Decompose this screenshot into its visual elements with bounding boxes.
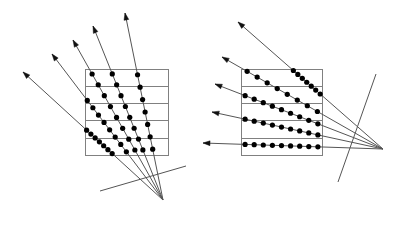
shallow-fan-beam-panel-ray-1-arrowhead-icon [212,111,219,116]
shallow-fan-beam-panel-sample-dot [297,144,302,149]
shallow-fan-beam-panel-sample-dot [270,122,275,127]
steep-fan-beam-panel-sample-dot [120,126,125,131]
steep-fan-beam-panel-ray-0 [23,72,163,200]
steep-fan-beam-panel-sample-dot [110,151,115,156]
steep-fan-beam-panel-sample-dot [113,135,118,140]
shallow-fan-beam-panel-sample-dot [270,104,275,109]
shallow-fan-beam-panel-sample-dot [243,93,248,98]
shallow-fan-beam-panel-sample-dot [297,114,302,119]
steep-fan-beam-panel-sample-dot [137,85,142,90]
shallow-fan-beam-panel-sample-dot [291,68,296,73]
steep-fan-beam-panel-sample-dot [150,147,155,152]
steep-fan-beam-panel-sample-dot [118,93,123,98]
shallow-fan-beam-panel-sample-dot [279,107,284,112]
steep-fan-beam-panel-sample-dot [108,104,113,109]
shallow-fan-beam-panel-sample-dot [242,142,247,147]
shallow-fan-beam-panel-sample-dot [279,124,284,129]
shallow-fan-beam-panel-sample-dot [270,143,275,148]
shallow-fan-beam-panel-sample-dot [315,144,320,149]
shallow-fan-beam-panel-sample-dot [288,126,293,131]
shallow-fan-beam-panel-sample-dot [315,132,320,137]
steep-fan-beam-panel [23,13,186,200]
steep-fan-beam-panel-sample-dot [107,127,112,132]
steep-fan-beam-panel-ray-4-arrowhead-icon [124,13,129,20]
shallow-fan-beam-panel-sample-dot [279,143,284,148]
steep-fan-beam-panel-ray-3-arrowhead-icon [93,26,98,33]
shallow-fan-beam-panel-sample-dot [252,119,257,124]
shallow-fan-beam-panel-sample-dot [261,142,266,147]
shallow-fan-beam-panel-sample-dot [300,76,305,81]
steep-fan-beam-panel-sample-dot [140,147,145,152]
shallow-fan-beam-panel-sample-dot [297,128,302,133]
steep-fan-beam-panel-sample-dot [114,115,119,120]
steep-fan-beam-panel-sample-dot [90,71,95,76]
shallow-fan-beam-panel-sample-dot [313,87,318,92]
shallow-fan-beam-panel-ray-3-arrowhead-icon [222,57,229,63]
shallow-fan-beam-panel-sample-dot [245,69,250,74]
steep-fan-beam-panel-sample-dot [136,136,141,141]
steep-fan-beam-panel-sample-dot [110,71,115,76]
steep-fan-beam-panel-sample-dot [132,126,137,131]
shallow-fan-beam-panel-sample-dot [288,111,293,116]
detector-line-right [338,74,376,182]
shallow-fan-beam-panel-sample-dot [275,86,280,91]
shallow-fan-beam-panel-sample-dot [295,97,300,102]
shallow-fan-beam-panel-sample-dot [265,80,270,85]
steep-fan-beam-panel-ray-3 [93,26,163,200]
steep-fan-beam-panel-sample-dot [132,147,137,152]
shallow-fan-beam-panel-sample-dot [261,100,266,105]
steep-fan-beam-panel-sample-dot [118,142,123,147]
shallow-fan-beam-panel-ray-0-arrowhead-icon [203,141,210,146]
steep-fan-beam-panel-ray-1-arrowhead-icon [52,54,58,61]
shallow-fan-beam-panel-sample-dot [255,75,260,80]
shallow-fan-beam-panel-sample-dot [261,121,266,126]
steep-fan-beam-panel-sample-dot [105,147,110,152]
ray-diagram-svg [0,0,408,231]
steep-fan-beam-panel-ray-2-arrowhead-icon [73,40,79,47]
steep-fan-beam-panel-sample-dot [145,122,150,127]
steep-fan-beam-panel-sample-dot [84,128,89,133]
steep-fan-beam-panel-sample-dot [114,82,119,87]
steep-fan-beam-panel-sample-dot [148,134,153,139]
shallow-fan-beam-panel-sample-dot [305,103,310,108]
shallow-fan-beam-panel-ray-2-arrowhead-icon [215,84,222,89]
shallow-fan-beam-panel-sample-dot [318,91,323,96]
detector-line-left [100,166,186,191]
steep-fan-beam-panel-sample-dot [135,72,140,77]
shallow-fan-beam-panel-sample-dot [243,117,248,122]
shallow-fan-beam-panel-sample-dot [306,118,311,123]
shallow-fan-beam-panel-sample-dot [315,121,320,126]
figure-canvas [0,0,408,231]
shallow-fan-beam-panel-sample-dot [304,80,309,85]
shallow-fan-beam-panel-sample-dot [252,97,257,102]
shallow-fan-beam-panel-sample-dot [295,72,300,77]
steep-fan-beam-panel-sample-dot [140,97,145,102]
steep-fan-beam-panel-sample-dot [96,82,101,87]
steep-fan-beam-panel-sample-dot [143,109,148,114]
shallow-fan-beam-panel-sample-dot [306,130,311,135]
steep-fan-beam-panel-sample-dot [90,105,95,110]
steep-fan-beam-panel-sample-dot [93,135,98,140]
steep-fan-beam-panel-sample-dot [102,93,107,98]
shallow-fan-beam-panel-sample-dot [285,92,290,97]
steep-fan-beam-panel-sample-dot [123,104,128,109]
shallow-fan-beam-panel-sample-dot [306,144,311,149]
steep-fan-beam-panel-sample-dot [127,115,132,120]
steep-fan-beam-panel-sample-dot [96,113,101,118]
steep-fan-beam-panel-sample-dot [97,139,102,144]
steep-fan-beam-panel-sample-dot [88,131,93,136]
steep-fan-beam-panel-sample-dot [85,98,90,103]
steep-fan-beam-panel-ray-1 [52,54,163,200]
shallow-fan-beam-panel-sample-dot [288,143,293,148]
steep-fan-beam-panel-ray-4 [125,13,163,200]
shallow-fan-beam-panel-sample-dot [309,84,314,89]
shallow-fan-beam-panel-sample-dot [252,142,257,147]
steep-fan-beam-panel-sample-dot [101,143,106,148]
steep-fan-beam-panel-sample-dot [101,120,106,125]
steep-fan-beam-panel-sample-dot [124,149,129,154]
shallow-fan-beam-panel [203,22,383,182]
steep-fan-beam-panel-sample-dot [126,137,131,142]
shallow-fan-beam-panel-sample-dot [315,109,320,114]
